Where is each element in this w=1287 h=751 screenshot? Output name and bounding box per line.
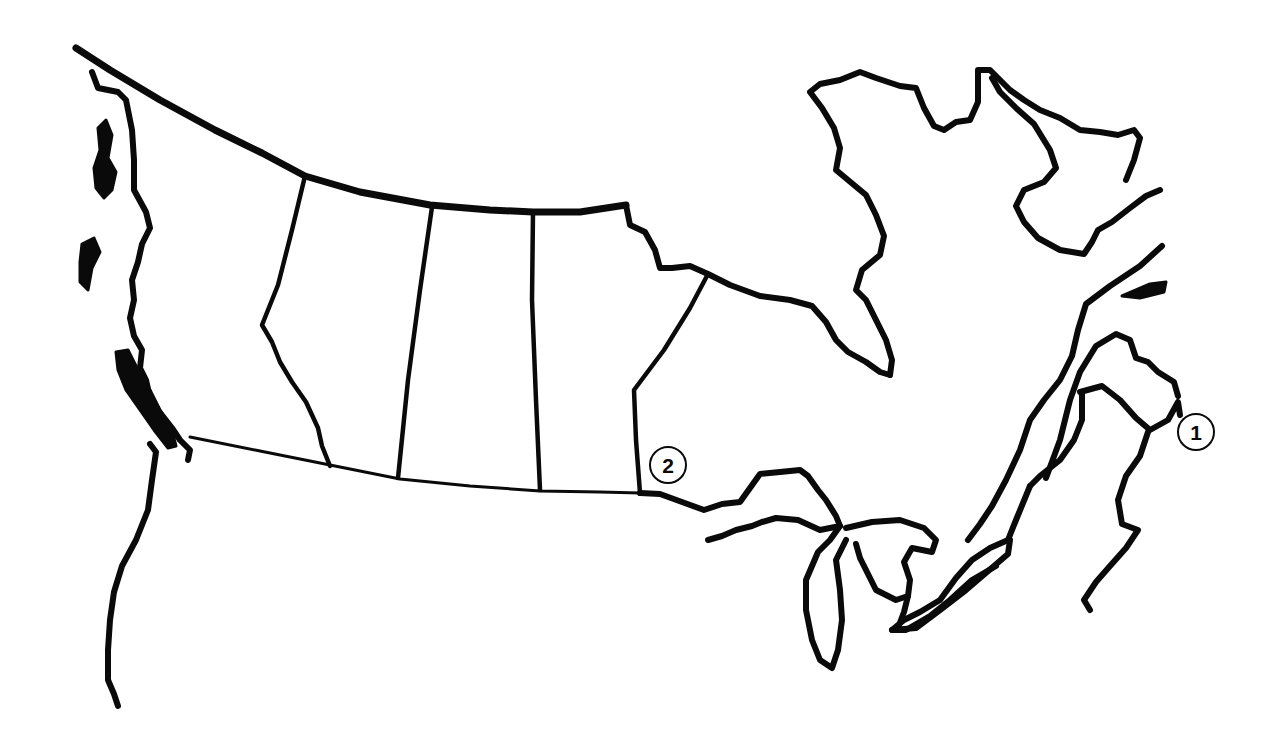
pacific-coast-south [108,444,156,706]
border-saskatchewan-manitoba [532,212,540,490]
map-container: 1 2 [0,0,1287,751]
border-49th-parallel [190,437,640,493]
marker-1: 1 [1177,413,1215,451]
marker-2-label: 2 [662,455,674,476]
small-coastal-island [80,238,100,290]
hudson-bay-east-shore [810,70,1140,375]
haida-gwaii-island [94,120,116,198]
canada-outline-map [0,0,1287,751]
lake-michigan [806,526,846,668]
northern-boundary-line [76,48,626,212]
border-bc-alberta [262,176,330,466]
marker-1-label: 1 [1190,422,1202,443]
new-brunswick-coast [1080,386,1180,430]
anticosti-island [1122,282,1166,298]
border-alberta-saskatchewan [398,207,432,478]
lake-huron [846,520,936,600]
nova-scotia-coast [1084,432,1148,610]
marker-2: 2 [649,446,687,484]
vancouver-island [116,350,176,448]
st-lawrence-shore [892,486,1030,630]
